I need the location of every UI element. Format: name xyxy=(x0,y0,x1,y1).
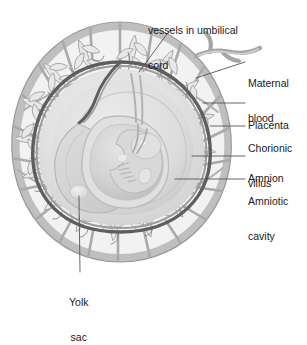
label-yolk-sac: Yolk sac xyxy=(69,274,88,345)
embryo-complex xyxy=(55,116,169,213)
label-vessels-umbilical-cord: vessels in umbilical cord xyxy=(148,2,238,83)
label-amniotic-cavity: Amniotic cavity xyxy=(248,173,288,254)
